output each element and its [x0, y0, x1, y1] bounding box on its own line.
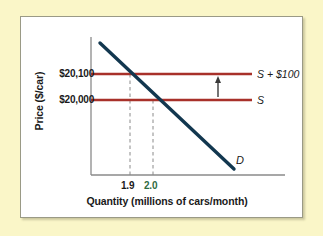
supply-shifted-label: S + $100: [257, 68, 299, 80]
demand-curve: [100, 43, 234, 169]
figure-canvas: Price ($/car) Quantity (millions of cars…: [0, 0, 323, 236]
shift-arrow-icon: [215, 76, 221, 97]
demand-label: D: [236, 154, 244, 166]
plot-area: [21, 17, 304, 219]
y-tick-label-20000: $20,000: [59, 94, 94, 105]
chart-svg: [21, 17, 304, 219]
x-tick-label-1-9: 1.9: [121, 180, 134, 191]
x-tick-label-2-0: 2.0: [144, 180, 157, 191]
y-axis-title: Price ($/car): [33, 49, 45, 153]
supply-label: S: [257, 94, 264, 106]
x-axis-title: Quantity (millions of cars/month): [47, 195, 287, 207]
y-tick-label-20100: $20,100: [59, 68, 94, 79]
chart-panel: Price ($/car) Quantity (millions of cars…: [20, 16, 303, 218]
